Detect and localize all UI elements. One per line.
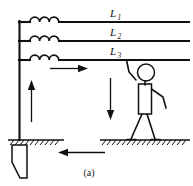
label-L3: L 3 — [109, 45, 122, 60]
inductor-coil-L3 — [30, 55, 59, 60]
label-L2-letter: L — [109, 26, 116, 38]
current-arrow-upper-right — [50, 65, 88, 72]
person-leg-back — [131, 114, 142, 139]
person-leg-front — [147, 114, 155, 139]
inductor-coil-L2 — [30, 36, 59, 41]
grounding-electrode — [12, 145, 27, 178]
label-L3-subscript: 3 — [117, 51, 122, 60]
ground-surface-right — [100, 140, 190, 145]
person-head — [138, 64, 155, 81]
inductor-coil-L1 — [30, 17, 59, 22]
figure-container: L 1 L 2 L 3 — [0, 0, 193, 186]
person-free-arm — [152, 89, 167, 108]
current-arrow-left-vertical — [28, 80, 35, 122]
label-L1-subscript: 1 — [118, 13, 122, 22]
label-L3-letter: L — [109, 45, 116, 57]
electrical-safety-diagram: L 1 L 2 L 3 — [0, 0, 193, 186]
label-L2-subscript: 2 — [118, 32, 122, 41]
person-figure — [127, 60, 167, 140]
person-raised-arm — [127, 60, 137, 80]
current-arrow-person-down — [107, 78, 114, 120]
label-L1: L 1 — [109, 7, 121, 22]
current-arrow-ground-return — [58, 149, 105, 156]
person-torso — [139, 84, 152, 114]
label-L1-letter: L — [109, 7, 116, 19]
label-L2: L 2 — [109, 26, 122, 41]
figure-caption: (a) — [83, 167, 94, 179]
